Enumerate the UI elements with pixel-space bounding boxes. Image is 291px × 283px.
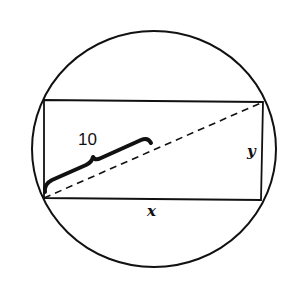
width-label-x: x [146, 202, 157, 220]
dashed-diagonal [44, 102, 263, 198]
diagram-canvas: 10 y x [0, 0, 291, 283]
inscribed-rectangle [44, 100, 263, 200]
curly-brace [45, 139, 151, 192]
height-label-y: y [246, 142, 257, 160]
brace-length-label: 10 [78, 130, 97, 149]
